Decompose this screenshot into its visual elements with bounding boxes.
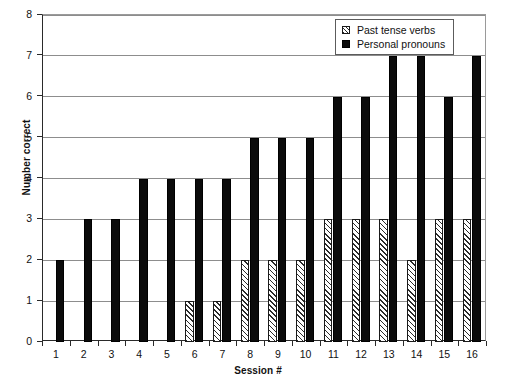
y-axis-title: Number correct bbox=[21, 88, 32, 228]
bar-past-tense-verbs-session-14 bbox=[407, 260, 416, 342]
bar-past-tense-verbs-session-8 bbox=[241, 260, 250, 342]
bar-past-tense-verbs-session-10 bbox=[296, 260, 305, 342]
bar-past-tense-verbs-session-16 bbox=[463, 219, 472, 342]
bar-past-tense-verbs-session-7 bbox=[213, 301, 222, 342]
bar-chart: Number correct 012345678 123456789101112… bbox=[0, 0, 508, 387]
legend-label: Past tense verbs bbox=[357, 25, 435, 36]
y-tick-mark bbox=[37, 259, 42, 260]
legend-item-past-tense-verbs: Past tense verbs bbox=[342, 23, 445, 37]
legend-item-personal-pronouns: Personal pronouns bbox=[342, 37, 445, 51]
bar-past-tense-verbs-session-12 bbox=[352, 219, 361, 342]
x-tick-label: 5 bbox=[154, 348, 180, 361]
x-tick-mark bbox=[181, 341, 182, 346]
x-tick-mark bbox=[42, 341, 43, 346]
x-tick-label: 4 bbox=[126, 348, 152, 361]
x-tick-mark bbox=[375, 341, 376, 346]
x-tick-mark bbox=[98, 341, 99, 346]
filled-square-icon bbox=[342, 40, 350, 48]
bar-past-tense-verbs-session-6 bbox=[185, 301, 194, 342]
bar-past-tense-verbs-session-9 bbox=[268, 260, 277, 342]
y-tick-label: 4 bbox=[6, 173, 32, 184]
x-tick-mark bbox=[403, 341, 404, 346]
bar-personal-pronouns-session-15 bbox=[444, 97, 453, 342]
x-tick-mark bbox=[70, 341, 71, 346]
bar-personal-pronouns-session-1 bbox=[56, 260, 65, 342]
x-tick-label: 6 bbox=[182, 348, 208, 361]
x-tick-label: 11 bbox=[320, 348, 346, 361]
bar-personal-pronouns-session-2 bbox=[84, 219, 93, 342]
y-tick-mark bbox=[37, 54, 42, 55]
x-tick-mark bbox=[125, 341, 126, 346]
x-tick-label: 13 bbox=[376, 348, 402, 361]
bar-personal-pronouns-session-13 bbox=[389, 56, 398, 342]
chart-legend: Past tense verbs Personal pronouns bbox=[335, 19, 454, 55]
y-tick-mark bbox=[37, 177, 42, 178]
x-tick-label: 8 bbox=[237, 348, 263, 361]
bar-past-tense-verbs-session-11 bbox=[324, 219, 333, 342]
y-tick-mark bbox=[37, 218, 42, 219]
x-tick-mark bbox=[292, 341, 293, 346]
x-tick-label: 2 bbox=[71, 348, 97, 361]
x-tick-mark bbox=[153, 341, 154, 346]
bar-past-tense-verbs-session-15 bbox=[435, 219, 444, 342]
y-tick-label: 5 bbox=[6, 132, 32, 143]
hatched-square-icon bbox=[342, 26, 350, 34]
legend-label: Personal pronouns bbox=[357, 39, 445, 50]
gridline bbox=[43, 15, 485, 16]
x-tick-label: 7 bbox=[209, 348, 235, 361]
y-tick-mark bbox=[37, 95, 42, 96]
y-tick-mark bbox=[37, 136, 42, 137]
x-tick-mark bbox=[209, 341, 210, 346]
x-tick-mark bbox=[458, 341, 459, 346]
y-tick-mark bbox=[37, 300, 42, 301]
y-tick-label: 8 bbox=[6, 9, 32, 20]
y-tick-label: 3 bbox=[6, 213, 32, 224]
bar-personal-pronouns-session-5 bbox=[167, 179, 176, 343]
x-tick-mark bbox=[347, 341, 348, 346]
x-tick-mark bbox=[320, 341, 321, 346]
x-tick-mark bbox=[486, 341, 487, 346]
bar-personal-pronouns-session-16 bbox=[472, 56, 481, 342]
bar-personal-pronouns-session-6 bbox=[195, 179, 204, 343]
y-tick-label: 0 bbox=[6, 336, 32, 347]
y-tick-label: 7 bbox=[6, 50, 32, 61]
bar-personal-pronouns-session-4 bbox=[139, 179, 148, 343]
y-tick-label: 6 bbox=[6, 91, 32, 102]
x-tick-label: 1 bbox=[43, 348, 69, 361]
x-tick-mark bbox=[264, 341, 265, 346]
y-tick-label: 2 bbox=[6, 254, 32, 265]
x-tick-label: 16 bbox=[459, 348, 485, 361]
bar-personal-pronouns-session-11 bbox=[333, 97, 342, 342]
plot-area bbox=[42, 14, 486, 341]
bar-personal-pronouns-session-8 bbox=[250, 138, 259, 342]
y-tick-label: 1 bbox=[6, 295, 32, 306]
x-tick-label: 9 bbox=[265, 348, 291, 361]
x-tick-mark bbox=[431, 341, 432, 346]
bar-personal-pronouns-session-12 bbox=[361, 97, 370, 342]
x-tick-label: 10 bbox=[293, 348, 319, 361]
x-tick-mark bbox=[236, 341, 237, 346]
bar-personal-pronouns-session-10 bbox=[306, 138, 315, 342]
bar-personal-pronouns-session-7 bbox=[222, 179, 231, 343]
bar-personal-pronouns-session-3 bbox=[111, 219, 120, 342]
x-tick-label: 12 bbox=[348, 348, 374, 361]
bar-personal-pronouns-session-9 bbox=[278, 138, 287, 342]
bar-personal-pronouns-session-14 bbox=[417, 56, 426, 342]
x-tick-label: 15 bbox=[431, 348, 457, 361]
x-tick-label: 14 bbox=[404, 348, 430, 361]
y-tick-mark bbox=[37, 14, 42, 15]
bar-past-tense-verbs-session-13 bbox=[379, 219, 388, 342]
x-tick-label: 3 bbox=[98, 348, 124, 361]
x-axis-title: Session # bbox=[30, 365, 486, 376]
